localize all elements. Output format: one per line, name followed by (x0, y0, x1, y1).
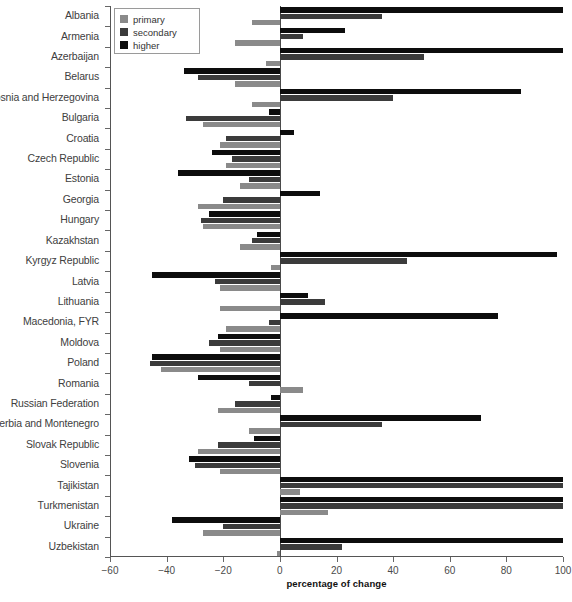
x-axis-tick-label: 60 (444, 565, 455, 576)
x-axis-tick (506, 557, 507, 562)
y-axis-label: Ukraine (64, 520, 99, 531)
y-axis-label: Turkmenistan (38, 500, 99, 511)
y-axis-label: Hungary (60, 214, 99, 225)
x-axis-tick (110, 557, 111, 562)
legend-label-higher: higher (133, 41, 159, 50)
x-axis-tick-label: −40 (158, 565, 175, 576)
x-axis-tick-label: −20 (215, 565, 232, 576)
y-axis-label: Romania (58, 378, 99, 389)
x-axis-tick (450, 557, 451, 562)
y-axis-label: Uzbekistan (49, 541, 99, 552)
x-axis: −60−40−20020406080100 (110, 6, 563, 557)
x-axis-tick-label: 80 (501, 565, 512, 576)
y-axis-label: Bosnia and Herzegovina (0, 92, 99, 103)
y-axis-label: Macedonia, FYR (23, 316, 99, 327)
legend-label-primary: primary (133, 15, 165, 24)
x-axis-tick-label: −60 (102, 565, 119, 576)
y-axis-label: Belarus (64, 71, 99, 82)
bar-chart: AlbaniaArmeniaAzerbaijanBelarusBosnia an… (0, 0, 572, 602)
y-axis-label: Bulgaria (62, 112, 99, 123)
x-axis-tick-label: 100 (555, 565, 572, 576)
x-axis-tick (167, 557, 168, 562)
y-axis-label: Latvia (72, 276, 99, 287)
legend-label-secondary: secondary (133, 28, 177, 37)
x-axis-tick-label: 0 (277, 565, 283, 576)
x-axis-tick (280, 557, 281, 562)
y-axis-label: Tajikistan (57, 480, 99, 491)
y-axis-label: Kyrgyz Republic (25, 255, 99, 266)
y-axis-label: Albania (65, 10, 99, 21)
legend: primary secondary higher (114, 8, 200, 54)
x-axis-tick (337, 557, 338, 562)
x-axis-tick (393, 557, 394, 562)
x-axis-tick (563, 557, 564, 562)
y-axis-label: Armenia (61, 31, 99, 42)
y-axis-label: Russian Federation (11, 398, 99, 409)
legend-item-secondary: secondary (120, 26, 194, 38)
y-axis-label: Czech Republic (28, 153, 99, 164)
x-axis-tick (223, 557, 224, 562)
x-axis-title: percentage of change (110, 578, 563, 589)
legend-swatch-secondary (120, 28, 128, 36)
y-axis-label: Slovak Republic (26, 439, 99, 450)
legend-item-higher: higher (120, 39, 194, 51)
y-axis-label: Poland (67, 357, 99, 368)
legend-swatch-higher (120, 41, 128, 49)
y-axis-label: Georgia (63, 194, 99, 205)
y-axis-label: Serbia and Montenegro (0, 418, 99, 429)
x-axis-tick-label: 40 (388, 565, 399, 576)
legend-swatch-primary (120, 15, 128, 23)
y-axis-label: Kazakhstan (46, 235, 99, 246)
y-axis-label: Azerbaijan (51, 51, 99, 62)
y-axis-category-labels: AlbaniaArmeniaAzerbaijanBelarusBosnia an… (0, 6, 105, 557)
x-axis-tick-label: 20 (331, 565, 342, 576)
y-axis-label: Croatia (66, 133, 99, 144)
legend-item-primary: primary (120, 13, 194, 25)
y-axis-label: Estonia (65, 173, 99, 184)
y-axis-label: Lithuania (58, 296, 99, 307)
y-axis-label: Moldova (60, 337, 99, 348)
y-axis-label: Slovenia (60, 459, 99, 470)
